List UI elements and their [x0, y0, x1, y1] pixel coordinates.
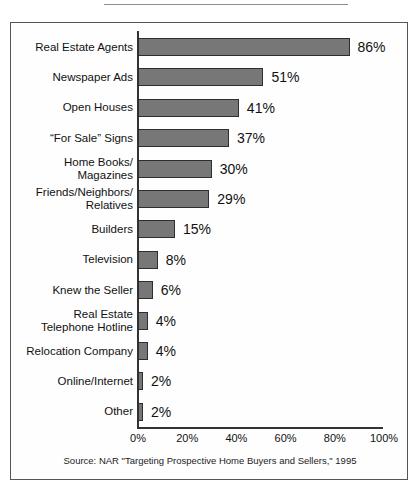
- bar-track: 2%: [138, 366, 409, 396]
- source-note: Source: NAR "Targeting Prospective Home …: [11, 455, 409, 466]
- bar-value-label: 15%: [183, 214, 211, 244]
- bar-row: Relocation Company4%: [11, 336, 409, 366]
- bar-row: Other2%: [11, 397, 409, 427]
- bar-category-label-line: Open Houses: [63, 101, 133, 114]
- x-axis-tick-label: 100%: [361, 432, 407, 444]
- bar-row: Builders15%: [11, 214, 409, 244]
- bar-value-label: 29%: [217, 184, 245, 214]
- bar-track: 2%: [138, 397, 409, 427]
- x-axis-tick-label: 60%: [263, 432, 309, 444]
- bar-row: Open Houses41%: [11, 93, 409, 123]
- bar-category-label-line: Home Books/: [64, 156, 133, 169]
- bar-value-label: 30%: [220, 154, 248, 184]
- bar-category-label-line: Relocation Company: [26, 345, 133, 358]
- bar-category-label: Online/Internet: [0, 366, 133, 396]
- bar-category-label-line: Television: [83, 253, 134, 266]
- bar-category-label: Open Houses: [0, 93, 133, 123]
- bar-value-label: 86%: [358, 32, 386, 62]
- bar-category-label: Newspaper Ads: [0, 62, 133, 92]
- x-axis-tick-label: 80%: [312, 432, 358, 444]
- bar: [138, 68, 263, 86]
- bar: [138, 38, 350, 56]
- bar-value-label: 2%: [151, 366, 171, 396]
- bar-value-label: 4%: [156, 306, 176, 336]
- bar: [138, 403, 143, 421]
- bar-row: Knew the Seller6%: [11, 275, 409, 305]
- bar: [138, 281, 153, 299]
- bar: [138, 372, 143, 390]
- bar-category-label-line: “For Sale” Signs: [50, 132, 133, 145]
- bar-category-label: Knew the Seller: [0, 275, 133, 305]
- bar: [138, 99, 239, 117]
- bar-value-label: 8%: [166, 245, 186, 275]
- bar-row: Home Books/Magazines30%: [11, 154, 409, 184]
- bar-track: 4%: [138, 336, 409, 366]
- bar-row: Television8%: [11, 245, 409, 275]
- bar-row: Friends/Neighbors/Relatives29%: [11, 184, 409, 214]
- bar-category-label: Other: [0, 397, 133, 427]
- bar-category-label-line: Other: [104, 405, 133, 418]
- bar-row: Real Estate Agents86%: [11, 32, 409, 62]
- bar-value-label: 2%: [151, 397, 171, 427]
- x-axis-line: [137, 427, 383, 429]
- bar: [138, 160, 212, 178]
- bar-category-label-line: Online/Internet: [58, 375, 133, 388]
- bar-row: Newspaper Ads51%: [11, 62, 409, 92]
- bar: [138, 220, 175, 238]
- bar: [138, 312, 148, 330]
- bar-category-label-line: Relatives: [86, 199, 133, 212]
- bar-category-label: Home Books/Magazines: [0, 154, 133, 184]
- bar-category-label: “For Sale” Signs: [0, 123, 133, 153]
- bar-category-label-line: Telephone Hotline: [41, 321, 133, 334]
- bar-category-label: Real Estate Agents: [0, 32, 133, 62]
- bar-track: 37%: [138, 123, 409, 153]
- bar-category-label: Relocation Company: [0, 336, 133, 366]
- bar-category-label-line: Magazines: [77, 169, 133, 182]
- bar-category-label: Friends/Neighbors/Relatives: [0, 184, 133, 214]
- bar-category-label: Real EstateTelephone Hotline: [0, 306, 133, 336]
- bar-track: 6%: [138, 275, 409, 305]
- bar-value-label: 4%: [156, 336, 176, 366]
- bar: [138, 342, 148, 360]
- bar-value-label: 51%: [271, 62, 299, 92]
- bar-track: 51%: [138, 62, 409, 92]
- figure-frame: Real Estate Agents86%Newspaper Ads51%Ope…: [10, 22, 408, 480]
- title-rule: [104, 4, 348, 5]
- bar-track: 86%: [138, 32, 409, 62]
- x-axis-tick-label: 0%: [115, 432, 161, 444]
- bar-value-label: 37%: [237, 123, 265, 153]
- bar: [138, 190, 209, 208]
- x-axis-tick-label: 40%: [213, 432, 259, 444]
- bar-row: Online/Internet2%: [11, 366, 409, 396]
- bar-category-label-line: Friends/Neighbors/: [36, 186, 133, 199]
- bar-category-label: Television: [0, 245, 133, 275]
- bar: [138, 129, 229, 147]
- bar-track: 8%: [138, 245, 409, 275]
- bar: [138, 251, 158, 269]
- bar-row: Real EstateTelephone Hotline4%: [11, 306, 409, 336]
- bar-row: “For Sale” Signs37%: [11, 123, 409, 153]
- bar-category-label-line: Newspaper Ads: [52, 71, 133, 84]
- bar-value-label: 6%: [161, 275, 181, 305]
- bar-category-label-line: Knew the Seller: [52, 284, 133, 297]
- bar-category-label-line: Real Estate Agents: [35, 41, 133, 54]
- bar-chart-plot-area: Real Estate Agents86%Newspaper Ads51%Ope…: [11, 23, 409, 481]
- bar-track: 15%: [138, 214, 409, 244]
- bar-track: 30%: [138, 154, 409, 184]
- bar-track: 41%: [138, 93, 409, 123]
- bar-value-label: 41%: [247, 93, 275, 123]
- bar-category-label-line: Real Estate: [74, 308, 133, 321]
- bar-track: 4%: [138, 306, 409, 336]
- bar-category-label-line: Builders: [91, 223, 133, 236]
- x-axis-tick-label: 20%: [164, 432, 210, 444]
- bar-category-label: Builders: [0, 214, 133, 244]
- bar-track: 29%: [138, 184, 409, 214]
